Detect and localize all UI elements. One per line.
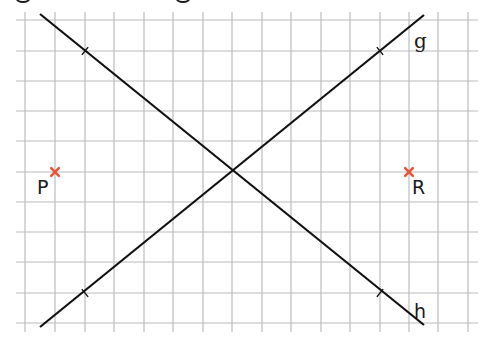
point-label-r: R bbox=[412, 176, 425, 198]
line-label-h: h bbox=[414, 300, 426, 322]
line-label-g: g bbox=[414, 29, 427, 53]
point-label-p: P bbox=[37, 176, 48, 198]
construction-diagram: g h P R bbox=[0, 0, 491, 342]
